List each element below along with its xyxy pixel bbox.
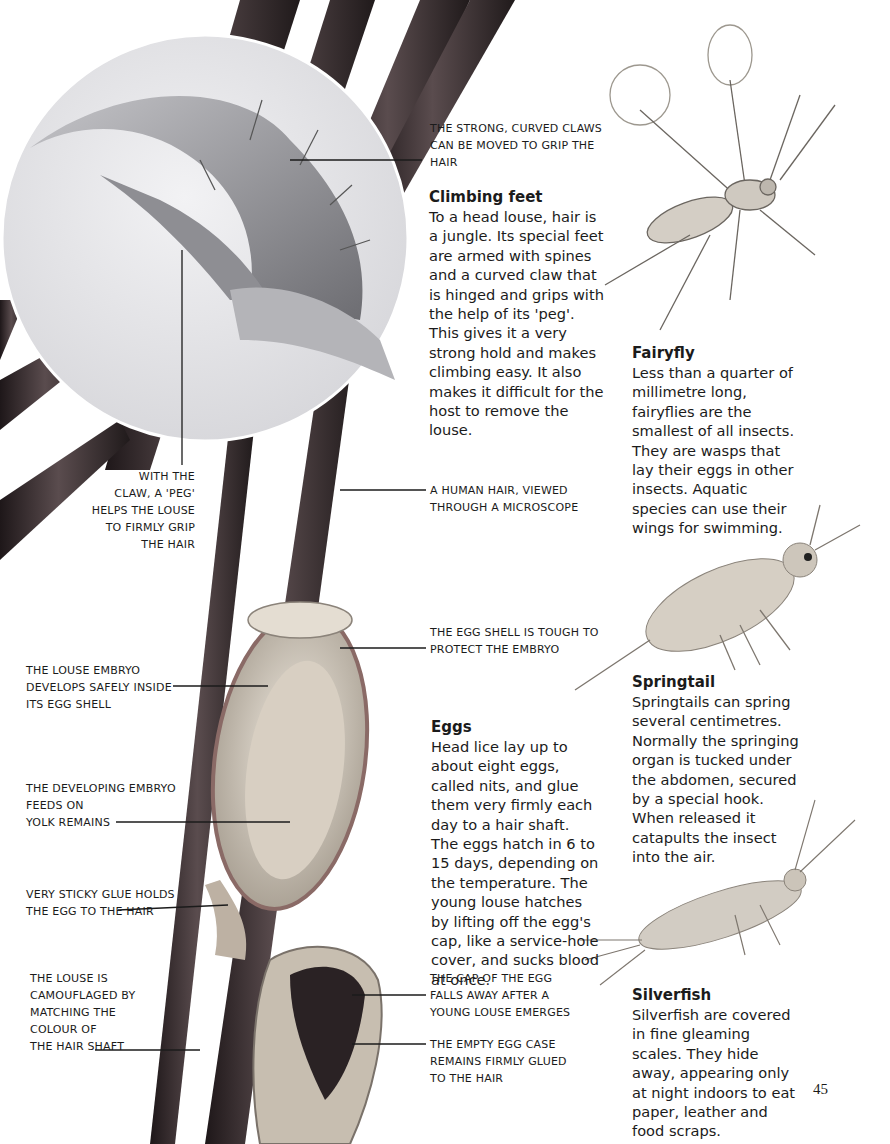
- section-title: Springtail: [632, 673, 804, 692]
- callout-line: to firmly grip: [60, 519, 195, 536]
- callout-line: The egg shell is tough to: [430, 624, 599, 641]
- callout-line: the hair: [60, 536, 195, 553]
- callout-line: protect the embryo: [430, 641, 599, 658]
- callout-line: With the: [60, 468, 195, 485]
- callout-line: its egg shell: [26, 696, 172, 713]
- callout-line: helps the louse: [60, 502, 195, 519]
- callout-line: Very sticky glue holds: [26, 886, 175, 903]
- section-fairyfly: Fairyfly Less than a quarter of millimet…: [632, 344, 802, 538]
- section-springtail: Springtail Springtails can spring severa…: [632, 673, 804, 867]
- callout-line: camouflaged by: [30, 987, 135, 1004]
- callout-line: The empty egg case: [430, 1036, 567, 1053]
- callout-claws: The strong, curved claws can be moved to…: [430, 120, 602, 171]
- empty-egg-case: [253, 947, 381, 1144]
- callout-peg: With the claw, a 'peg' helps the louse t…: [60, 468, 195, 553]
- section-body: Silverfish are covered in fine gleaming …: [632, 1005, 802, 1141]
- callout-line: The louse embryo: [26, 662, 172, 679]
- section-title: Silverfish: [632, 986, 802, 1005]
- section-silverfish: Silverfish Silverfish are covered in fin…: [632, 986, 802, 1141]
- callout-line: colour of: [30, 1021, 135, 1038]
- section-title: Eggs: [431, 718, 601, 737]
- callout-line: remains firmly glued: [430, 1053, 567, 1070]
- section-body: Springtails can spring several centimetr…: [632, 692, 804, 867]
- section-eggs: Eggs Head lice lay up to about eight egg…: [431, 718, 601, 989]
- callout-line: feeds on: [26, 797, 176, 814]
- fairyfly-illustration: [605, 25, 835, 330]
- page-number: 45: [813, 1081, 828, 1098]
- callout-line: The louse is: [30, 970, 135, 987]
- section-title: Climbing feet: [429, 188, 609, 207]
- section-title: Fairyfly: [632, 344, 802, 363]
- callout-line: The developing embryo: [26, 780, 176, 797]
- callout-egg-shell: The egg shell is tough to protect the em…: [430, 624, 599, 658]
- section-body: Head lice lay up to about eight eggs, ca…: [431, 737, 601, 989]
- callout-yolk: The developing embryo feeds on yolk rema…: [26, 780, 176, 831]
- callout-line: develops safely inside: [26, 679, 172, 696]
- callout-line: A human hair, viewed: [430, 482, 578, 499]
- callout-human-hair: A human hair, viewed through a microscop…: [430, 482, 578, 516]
- callout-line: through a microscope: [430, 499, 578, 516]
- magnified-claw: [2, 35, 408, 441]
- callout-line: falls away after a: [430, 987, 570, 1004]
- callout-line: to the hair: [430, 1070, 567, 1087]
- callout-camouflage: The louse is camouflaged by matching the…: [30, 970, 135, 1055]
- section-body: To a head louse, hair is a jungle. Its s…: [429, 207, 609, 440]
- callout-line: hair: [430, 154, 602, 171]
- callout-line: the egg to the hair: [26, 903, 175, 920]
- callout-empty-case: The empty egg case remains firmly glued …: [430, 1036, 567, 1087]
- callout-line: matching the: [30, 1004, 135, 1021]
- callout-glue: Very sticky glue holds the egg to the ha…: [26, 886, 175, 920]
- callout-line: yolk remains: [26, 814, 176, 831]
- callout-line: young louse emerges: [430, 1004, 570, 1021]
- section-climbing-feet: Climbing feet To a head louse, hair is a…: [429, 188, 609, 440]
- callout-line: the hair shaft: [30, 1038, 135, 1055]
- callout-embryo: The louse embryo develops safely inside …: [26, 662, 172, 713]
- callout-line: The strong, curved claws: [430, 120, 602, 137]
- section-body: Less than a quarter of millimetre long, …: [632, 363, 802, 538]
- callout-line: can be moved to grip the: [430, 137, 602, 154]
- callout-line: claw, a 'peg': [60, 485, 195, 502]
